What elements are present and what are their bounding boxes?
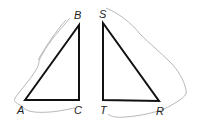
triangle-str — [103, 23, 159, 101]
vertex-label-r: R — [156, 105, 164, 117]
cut-outline-abc — [15, 18, 75, 112]
diagram-canvas: B S A C T R — [0, 0, 198, 132]
vertex-label-c: C — [74, 104, 82, 116]
vertex-label-s: S — [99, 8, 107, 20]
vertex-label-a: A — [16, 104, 24, 116]
triangle-abc — [25, 25, 79, 100]
vertex-label-t: T — [100, 104, 108, 116]
vertex-label-b: B — [74, 9, 81, 21]
